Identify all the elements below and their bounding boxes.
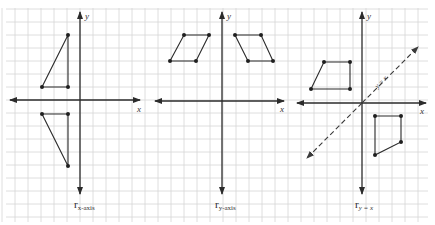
preimage-quadrilateral — [311, 62, 350, 89]
y-axis-label: y — [366, 11, 371, 21]
reflection-diagram: y x rx-axis y x — [0, 0, 435, 225]
x-axis-label: x — [279, 104, 284, 114]
x-axis-label: x — [136, 104, 141, 114]
transformation-label: ry-axis — [215, 198, 236, 212]
line-y-equals-x — [307, 103, 362, 158]
transformation-label: ry = x — [355, 198, 374, 212]
panel-y-axis-reflection: y x ry-axis — [155, 11, 284, 212]
image-triangle — [42, 114, 68, 166]
panel-y-equals-x-reflection: y x y = x ry = x — [297, 11, 426, 212]
line-y-equals-x-label: y = x — [373, 74, 390, 91]
x-axis-label: x — [419, 106, 424, 116]
y-axis-label: y — [226, 11, 231, 21]
y-axis-label: y — [84, 11, 89, 21]
panel-x-axis-reflection: y x rx-axis — [10, 11, 141, 212]
line-y-equals-x — [362, 47, 418, 103]
transformation-label: rx-axis — [74, 198, 95, 212]
